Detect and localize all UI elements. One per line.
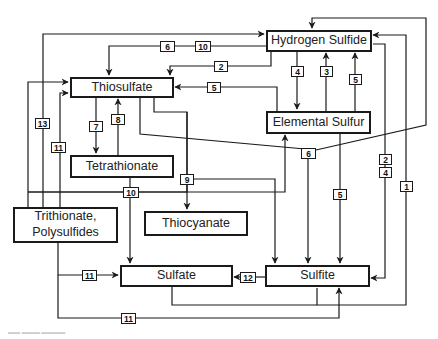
node-sulfate: Sulfate — [120, 265, 233, 287]
edge-label: 11 — [51, 142, 66, 153]
edge-label: 5 — [349, 74, 362, 85]
connector-lines — [0, 0, 438, 339]
node-elemental-sulfur: Elemental Sulfur — [266, 111, 371, 134]
edge-label: 8 — [111, 114, 125, 125]
edge-label: 6 — [160, 41, 175, 52]
node-label: Sulfite — [300, 268, 335, 284]
node-hydrogen-sulfide: Hydrogen Sulfide — [266, 30, 372, 52]
node-thiocyanate: Thiocyanate — [144, 211, 248, 236]
edge-label: 12 — [240, 272, 256, 283]
edge-label: 4 — [291, 66, 304, 77]
sulfur-metabolism-diagram: Hydrogen Sulfide Thiosulfate Elemental S… — [0, 0, 438, 339]
figure-caption: ▬▬ ▬▬▬ ▬▬▬▬ — [8, 329, 65, 335]
edge-label: 4 — [379, 167, 392, 178]
edge-label: 5 — [333, 189, 347, 200]
node-thiosulfate: Thiosulfate — [70, 77, 174, 98]
edge-label: 11 — [82, 270, 97, 281]
edge-label: 2 — [214, 61, 228, 72]
node-label: Thiosulfate — [91, 80, 152, 96]
edge-label: 11 — [121, 313, 136, 324]
node-label: Trithionate, Polysulfides — [32, 209, 99, 240]
edge-label: 10 — [123, 187, 139, 198]
node-sulfite: Sulfite — [265, 265, 370, 287]
edge-label: 6 — [301, 148, 316, 159]
edge-label: 9 — [180, 174, 194, 185]
edge-label: 5 — [207, 82, 221, 93]
node-label: Thiocyanate — [162, 216, 230, 232]
node-label: Elemental Sulfur — [273, 115, 365, 131]
edge-label: 1 — [400, 181, 413, 192]
node-tetrathionate: Tetrathionate — [70, 155, 174, 178]
edge-label: 2 — [379, 154, 392, 165]
node-trithionate-polysulfides: Trithionate, Polysulfides — [13, 207, 118, 243]
edge-label: 13 — [35, 118, 50, 129]
node-label: Tetrathionate — [86, 159, 158, 175]
edge-label: 3 — [320, 66, 333, 77]
edge-label: 10 — [195, 41, 211, 52]
node-label: Sulfate — [157, 268, 196, 284]
node-label: Hydrogen Sulfide — [271, 33, 367, 49]
edge-label: 7 — [89, 121, 103, 132]
